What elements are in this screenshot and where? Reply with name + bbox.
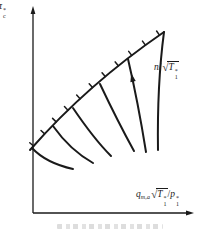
pi-subscript-c: c [3,13,6,19]
t-subscript-1: 1 [175,74,178,80]
surge-hatch-tick [53,118,57,122]
y-axis-label-pressure-ratio: π*c [0,0,6,19]
surge-hatch-tick [129,51,132,55]
surge-hatch-tick [102,73,105,77]
speed-parameter-label: n/√T*1 [154,61,179,80]
speed-line-5 [128,59,146,152]
figure-compressor-map: π*c n/√T*1 qm,a√T*1/p*1 [0,0,207,232]
surge-hatch-tick [142,41,145,45]
slash: / [159,62,162,72]
y-axis-arrowhead [31,6,36,14]
x-axis-arrowhead [186,211,194,216]
temperature-symbol: T [157,189,162,199]
surge-hatch-tick [157,31,160,35]
pi-symbol: π [0,0,2,11]
speed-line-4 [100,84,134,151]
pressure-symbol-p: p [170,189,175,199]
cut-off-caption-fragment [57,224,163,229]
surge-hatch-tick [41,130,45,133]
speed-increase-arrowhead [130,73,135,82]
speed-line-2 [53,126,93,163]
surge-hatch-tick [115,62,118,66]
surge-hatch-tick [64,107,67,111]
speed-line-6 [158,32,164,150]
x-axis-label-corrected-flow: qm,a√T*1/p*1 [136,188,179,207]
surge-hatch-tick [89,84,92,88]
t-subscript-1: 1 [164,201,167,207]
flow-subscript: m,a [141,194,150,200]
surge-boundary-line [30,32,164,150]
speed-line-3 [73,108,111,156]
surge-hatch-tick [77,95,80,99]
speed-line-1 [32,148,73,169]
temperature-symbol: T [168,62,173,72]
p-subscript-1: 1 [176,201,179,207]
